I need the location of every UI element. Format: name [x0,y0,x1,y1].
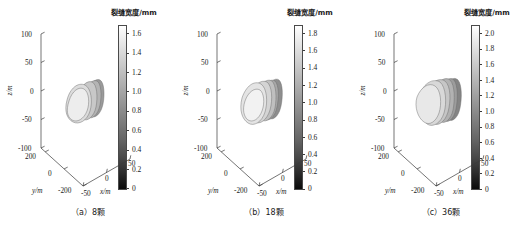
z-axis-label: z/m [5,85,14,95]
fracture-geometry-a [66,80,104,123]
fracture-geometry-b [241,79,282,124]
z-tick-label: 100 [21,31,32,38]
panel-a: 裂缝宽度/mm 1.6 1.4 1.2 1.0 0.8 0.6 0.4 0.2 … [0,0,176,234]
z-tick-label: 50 [201,59,208,66]
x-axis-label: x/m [453,188,464,195]
panel-c: 裂缝宽度/mm 2.0 1.8 1.6 1.4 1.2 1.0 0.8 0.6 … [353,0,529,234]
z-tick-label: -50 [22,116,32,123]
z-tick-label: -100 [371,145,384,152]
panel-caption-a: （a）8颗 [0,206,176,217]
x-tick-label: 50 [481,160,488,167]
z-tick-label: 100 [374,31,385,38]
x-tick-label: 0 [105,175,109,182]
axes-c: 100 50 0 -50 -100 z/m 200 0 -200 y/m -50… [353,0,529,234]
z-tick-label: 100 [197,31,208,38]
x-tick-label: -50 [257,190,267,197]
z-tick-label: 0 [206,88,210,95]
x-tick-label: 50 [304,160,311,167]
axes-a: 100 50 0 -50 -100 z/m 200 0 -200 y/m -50… [0,0,176,234]
fracture-geometry-c [416,78,461,125]
z-tick-label: 50 [378,59,385,66]
y-tick-label: 0 [224,170,228,177]
figure-three-panel-fracture-width: 裂缝宽度/mm 1.6 1.4 1.2 1.0 0.8 0.6 0.4 0.2 … [0,0,529,234]
x-axis-label: x/m [276,188,287,195]
y-tick-label: -200 [411,187,424,194]
y-tick-label: 0 [48,170,52,177]
x-tick-label: 0 [281,175,285,182]
z-tick-label: 0 [30,88,34,95]
y-tick-label: 0 [401,170,405,177]
z-tick-label: 0 [383,88,387,95]
x-axis-label: x/m [100,188,111,195]
y-axis-label: y/m [208,187,219,194]
z-axis-label: z/m [181,85,190,95]
x-tick-label: -50 [81,190,91,197]
y-tick-label: 200 [25,153,36,160]
z-tick-label: -50 [198,116,208,123]
z-tick-label: -100 [194,145,207,152]
panel-b: 裂缝宽度/mm 1.8 1.6 1.4 1.2 1.0 0.8 0.6 0.4 … [176,0,352,234]
y-tick-label: -200 [234,187,247,194]
y-axis-label: y/m [385,187,396,194]
z-axis-label: z/m [358,85,367,95]
y-axis-label: y/m [32,187,43,194]
z-tick-label: -50 [375,116,385,123]
y-tick-label: -200 [58,187,71,194]
z-tick-label: -100 [18,145,31,152]
z-tick-label: 50 [25,59,32,66]
panel-caption-c: （c）36颗 [353,206,529,217]
x-tick-label: -50 [434,190,444,197]
axes-b: 100 50 0 -50 -100 z/m 200 0 -200 y/m -50… [176,0,352,234]
y-tick-label: 200 [201,153,212,160]
panel-caption-b: （b）18颗 [176,206,352,217]
y-tick-label: 200 [378,153,389,160]
x-tick-label: 0 [458,175,462,182]
x-tick-label: 50 [128,160,135,167]
